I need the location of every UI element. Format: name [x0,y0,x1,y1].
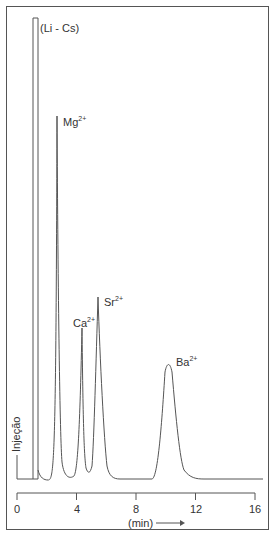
label-sr: Sr2+ [104,295,123,308]
label-li-cs: (Li - Cs) [40,22,79,34]
tick-8: 8 [133,503,139,515]
tick-4: 4 [74,503,80,515]
label-ba: Ba2+ [176,355,197,368]
label-mg: Mg2+ [63,115,86,128]
chromatogram-trace [17,18,263,480]
arrow-right-icon [156,520,185,526]
x-axis [17,493,255,500]
tick-0: 0 [14,503,20,515]
tick-12: 12 [190,503,202,515]
label-ca: Ca2+ [73,316,95,329]
chromatogram-chart: (Li - Cs) Mg2+ Ca2+ Sr2+ Ba2+ Injeção 0 … [0,0,277,539]
x-axis-label: (min) [128,517,153,529]
tick-16: 16 [249,503,261,515]
label-injection: Injeção [10,417,22,452]
